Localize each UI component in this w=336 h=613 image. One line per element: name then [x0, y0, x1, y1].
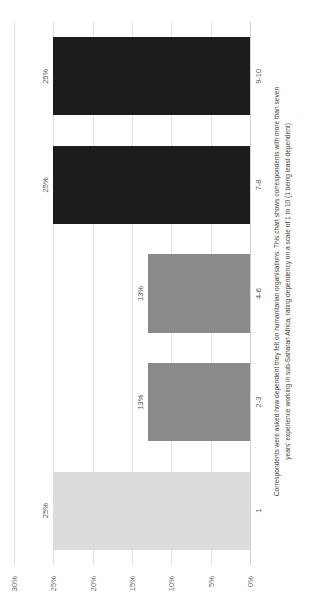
y-axis-tick-label: 30% [10, 576, 19, 591]
bar-slot: 13% [14, 348, 250, 457]
bar-value-label: 13% [136, 286, 145, 301]
x-axis-category-label: 2-3 [254, 348, 263, 457]
bar-value-label: 25% [41, 177, 50, 192]
bar [148, 363, 250, 441]
y-axis-tick-labels: 30%25%20%15%10%5%0% [14, 569, 250, 613]
bar-slot: 25% [14, 131, 250, 240]
caption-line-2: years' experience working in sub-Saharan… [283, 18, 294, 565]
bar-slot: 13% [14, 239, 250, 348]
y-axis-tick-label: 20% [88, 576, 97, 591]
chart-caption: Correspondents were asked how dependent … [272, 18, 294, 565]
bar [53, 472, 250, 550]
x-axis-category-label: 4-6 [254, 239, 263, 348]
x-axis-category-label: 7-8 [254, 131, 263, 240]
plot-area: 25%13%13%25%25% [14, 22, 250, 565]
bar [53, 37, 250, 115]
bar-slot: 25% [14, 22, 250, 131]
y-axis-tick-label: 10% [167, 576, 176, 591]
bar [53, 146, 250, 224]
x-axis-category-labels: 12-34-67-89-10 [254, 22, 263, 565]
caption-line-1: Correspondents were asked how dependent … [272, 18, 283, 565]
bar-slot: 25% [14, 456, 250, 565]
gridline [250, 22, 251, 565]
bar-value-label: 25% [41, 503, 50, 518]
y-axis-tick-label: 0% [246, 576, 255, 587]
bar-series: 25%13%13%25%25% [14, 22, 250, 565]
bar-chart-figure: 30%25%20%15%10%5%0% 25%13%13%25%25% 12-3… [0, 0, 336, 613]
rotated-figure-wrapper: 30%25%20%15%10%5%0% 25%13%13%25%25% 12-3… [0, 0, 336, 613]
y-axis-tick-label: 5% [206, 576, 215, 587]
bar-value-label: 25% [41, 69, 50, 84]
y-axis-tick-label: 25% [49, 576, 58, 591]
x-axis-category-label: 9-10 [254, 22, 263, 131]
y-axis-tick-label: 15% [128, 576, 137, 591]
bar-value-label: 13% [136, 395, 145, 410]
x-axis-category-label: 1 [254, 456, 263, 565]
bar [148, 254, 250, 332]
